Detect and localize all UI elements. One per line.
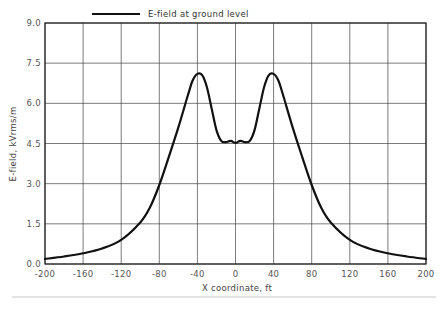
legend: E-field at ground level [92, 9, 249, 19]
y-tick-label: 1.5 [27, 219, 41, 229]
legend-label: E-field at ground level [148, 9, 249, 19]
x-tick-label: -40 [190, 269, 205, 279]
efield-chart: 0.01.53.04.56.07.59.0 -200-160-120-80-40… [0, 0, 444, 309]
y-tick-label: 0.0 [27, 259, 41, 269]
x-axis-ticks: -200-160-120-80-4004080120160200 [35, 269, 435, 279]
y-axis-ticks: 0.01.53.04.56.07.59.0 [27, 18, 41, 269]
x-tick-label: 40 [268, 269, 279, 279]
y-tick-label: 6.0 [27, 98, 41, 108]
y-tick-label: 3.0 [27, 179, 41, 189]
x-axis-label: X coordinate, ft [202, 283, 273, 293]
x-tick-label: -120 [111, 269, 132, 279]
x-tick-label: 160 [379, 269, 396, 279]
x-tick-label: 120 [341, 269, 358, 279]
y-tick-label: 9.0 [27, 18, 41, 28]
y-axis-label: E-field, kVrms/m [8, 107, 18, 182]
x-tick-label: 200 [417, 269, 434, 279]
x-tick-label: -200 [35, 269, 56, 279]
x-tick-label: -80 [152, 269, 167, 279]
x-tick-label: 80 [306, 269, 317, 279]
x-tick-label: 0 [233, 269, 239, 279]
y-tick-label: 4.5 [27, 139, 41, 149]
x-tick-label: -160 [73, 269, 94, 279]
y-tick-label: 7.5 [27, 58, 41, 68]
